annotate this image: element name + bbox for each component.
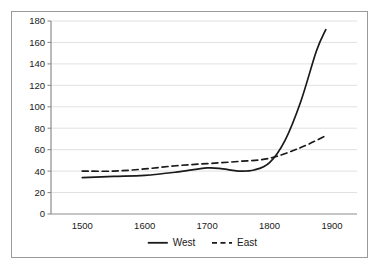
legend-label-east: East <box>237 237 257 248</box>
y-axis-tick-label: 100 <box>29 101 45 112</box>
y-axis-tick-label: 140 <box>29 58 45 69</box>
x-axis-tick-label: 1700 <box>197 220 218 231</box>
line-chart: 020406080100120140160180 150016001700180… <box>12 12 367 257</box>
x-axis-tick-label: 1600 <box>134 220 155 231</box>
y-axis-tick-label: 80 <box>34 123 45 134</box>
x-axis-tick-labels: 15001600170018001900 <box>72 220 343 231</box>
y-axis-tick-label: 40 <box>34 166 45 177</box>
series-line-east <box>82 136 326 172</box>
x-axis-tick-label: 1900 <box>321 220 342 231</box>
x-axis-tick-label: 1500 <box>72 220 93 231</box>
y-axis-tick-label: 180 <box>29 15 45 26</box>
series-line-west <box>82 30 326 178</box>
chart-figure: 020406080100120140160180 150016001700180… <box>11 11 368 258</box>
legend-label-west: West <box>173 237 196 248</box>
y-axis-tick-labels: 020406080100120140160180 <box>29 15 45 219</box>
chart-legend: WestEast <box>148 237 257 248</box>
y-axis-tick-label: 160 <box>29 37 45 48</box>
y-axis-tick-label: 120 <box>29 80 45 91</box>
y-axis-tick-label: 0 <box>40 208 45 219</box>
y-axis-tick-label: 20 <box>34 187 45 198</box>
y-axis-tick-label: 60 <box>34 144 45 155</box>
x-axis-tick-label: 1800 <box>259 220 280 231</box>
data-series-group <box>82 30 326 178</box>
gridlines <box>51 21 357 193</box>
